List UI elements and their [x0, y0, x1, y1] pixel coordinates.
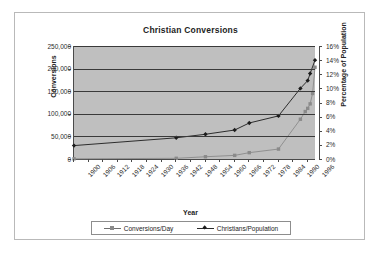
x-axis-tick-label: 1960 — [232, 163, 247, 178]
chart-frame: Christian Conversions Conversions Percen… — [14, 12, 365, 240]
y-axis-left-tick-label: 0 — [25, 156, 71, 163]
x-axis-tick-label: 1972 — [262, 163, 277, 178]
x-axis-tick-label: 1918 — [130, 163, 145, 178]
y-axis-right-tick-label: 16% — [326, 43, 350, 50]
chart-title: Christian Conversions — [15, 25, 366, 35]
x-axis-tick-label: 1912 — [115, 163, 130, 178]
x-axis-tick-label: 1924 — [145, 163, 160, 178]
y-axis-right-tick-label: 8% — [326, 99, 350, 106]
y-axis-left-tick-mark — [68, 159, 71, 160]
y-axis-right-tick-label: 12% — [326, 71, 350, 78]
x-axis-labels: 1900190619121918192419301936194219481954… — [73, 162, 333, 206]
diamond-marker — [197, 225, 214, 232]
x-axis-tick-label: 1930 — [159, 163, 174, 178]
legend-label: Conversions/Day — [124, 225, 174, 232]
x-axis-tick-label: 1936 — [174, 163, 189, 178]
x-axis-tick-label: 1984 — [291, 163, 306, 178]
y-axis-right-tick-label: 6% — [326, 113, 350, 120]
y-axis-left-tick-mark — [68, 46, 71, 47]
y-axis-left-tick-label: 50,000 — [25, 133, 71, 140]
square-marker — [110, 226, 114, 230]
y-axis-right-tick-label: 4% — [326, 127, 350, 134]
x-axis-title: Year — [15, 209, 366, 216]
legend-label: Christians/Population — [217, 225, 278, 232]
y-axis-right-tick-label: 2% — [326, 141, 350, 148]
y-axis-left-tick-mark — [68, 136, 71, 137]
x-axis-tick-label: 1900 — [86, 163, 101, 178]
y-axis-left-tick-label: 250,000 — [25, 43, 71, 50]
legend-entry[interactable]: Conversions/Day — [104, 225, 174, 232]
y-axis-left-tick-mark — [68, 69, 71, 70]
y-axis-right-tick-label: 10% — [326, 85, 350, 92]
x-axis-ticks — [73, 46, 315, 162]
x-axis-tick-label: 1966 — [247, 163, 262, 178]
x-axis-tick-label: 1978 — [276, 163, 291, 178]
y-axis-right-spine — [319, 46, 320, 159]
y-axis-left-tick-label: 100,000 — [25, 110, 71, 117]
y-axis-left-ticks: 250,000200,000150,000100,00050,0000 — [23, 46, 71, 159]
y-axis-left-tick-label: 200,000 — [25, 65, 71, 72]
x-axis-tick-label: 1996 — [320, 163, 335, 178]
legend-entry[interactable]: Christians/Population — [197, 225, 278, 232]
chart-legend: Conversions/DayChristians/Population — [91, 221, 291, 235]
x-axis-tick-label: 1906 — [101, 163, 116, 178]
x-axis-tick-label: 1948 — [203, 163, 218, 178]
y-axis-right-ticks: 16%14%12%10%8%6%4%2%0% — [319, 46, 345, 159]
y-axis-right-tick-label: 14% — [326, 57, 350, 64]
y-axis-left-tick-mark — [68, 114, 71, 115]
diamond-marker — [202, 225, 207, 230]
y-axis-right-tick-mark — [319, 159, 322, 160]
x-axis-tick-label: 1942 — [188, 163, 203, 178]
square-marker — [104, 225, 121, 232]
y-axis-left-tick-mark — [68, 91, 71, 92]
x-axis-tick-label: 1954 — [218, 163, 233, 178]
y-axis-left-tick-label: 150,000 — [25, 88, 71, 95]
x-axis-tick-label: 1990 — [305, 163, 320, 178]
